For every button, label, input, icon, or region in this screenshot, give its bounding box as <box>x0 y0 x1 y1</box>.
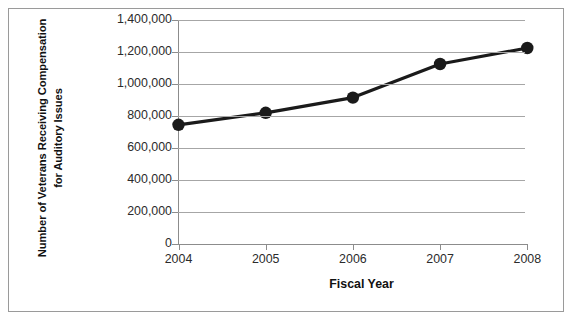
x-axis-title: Fiscal Year <box>178 277 545 291</box>
data-point-marker <box>434 58 446 70</box>
gridline <box>178 84 525 85</box>
x-axis-tick <box>440 244 441 250</box>
y-axis-tick <box>172 148 178 149</box>
x-axis-tick <box>353 244 354 250</box>
gridline <box>178 212 525 213</box>
y-axis-tick <box>172 116 178 117</box>
y-axis-tick <box>172 84 178 85</box>
y-axis-tick <box>172 244 178 245</box>
chart-figure: Number of Veterans Receiving Compensatio… <box>0 0 574 325</box>
y-axis-tick-label: 600,000 <box>86 141 172 154</box>
y-axis-tick-label: 200,000 <box>86 205 172 218</box>
x-axis-tick-label: 2007 <box>405 252 475 267</box>
y-axis-title-container: Number of Veterans Receiving Compensatio… <box>14 12 86 264</box>
x-axis-tick-label: 2005 <box>231 252 301 267</box>
x-axis-tick <box>266 244 267 250</box>
x-axis-tick-label: 2008 <box>492 252 562 267</box>
y-axis-tick-label: 1,400,000 <box>86 13 172 26</box>
plot-area <box>178 20 545 244</box>
y-axis-tick-label: 400,000 <box>86 173 172 186</box>
y-axis-tick-label: 1,200,000 <box>86 45 172 58</box>
y-axis-title: Number of Veterans Receiving Compensatio… <box>34 13 66 263</box>
gridline <box>178 52 525 53</box>
y-axis-tick-label: 800,000 <box>86 109 172 122</box>
x-axis-tick-labels: 20042005200620072008 <box>178 252 545 272</box>
y-axis-tick <box>172 52 178 53</box>
y-axis-tick <box>172 212 178 213</box>
gridline <box>178 180 525 181</box>
data-point-marker <box>347 91 359 103</box>
y-axis-tick <box>172 20 178 21</box>
data-point-marker <box>260 107 272 119</box>
x-axis-tick-label: 2004 <box>144 252 214 267</box>
series-line <box>179 48 528 125</box>
y-axis-tick-labels: 1,400,0001,200,0001,000,000800,000600,00… <box>80 20 172 244</box>
y-axis-tick-label: 0 <box>86 237 172 250</box>
x-axis-tick <box>527 244 528 250</box>
gridline <box>178 116 525 117</box>
gridline <box>178 20 525 21</box>
x-axis-tick <box>179 244 180 250</box>
gridline <box>178 148 525 149</box>
x-axis-tick-label: 2006 <box>318 252 388 267</box>
y-axis-tick <box>172 180 178 181</box>
y-axis-tick-label: 1,000,000 <box>86 77 172 90</box>
data-point-marker <box>172 119 184 131</box>
